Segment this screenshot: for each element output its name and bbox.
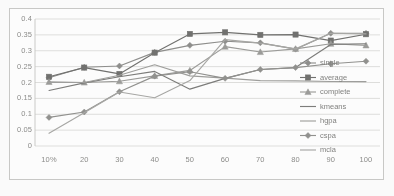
legend-item-single[interactable]: single [320, 58, 340, 67]
x-tick-label: 20 [68, 155, 100, 164]
y-tick-label: 0 [8, 141, 32, 150]
line-chart [0, 0, 394, 196]
legend-item-mcla[interactable]: mcla [320, 145, 336, 154]
x-tick-label: 70 [244, 155, 276, 164]
y-tick-label: 0.35 [8, 30, 32, 39]
legend-item-complete[interactable]: complete [320, 87, 350, 96]
x-tick-label: 30 [103, 155, 135, 164]
x-tick-label: 50 [174, 155, 206, 164]
y-tick-label: 0.4 [8, 14, 32, 23]
legend-item-hgpa[interactable]: hgpa [320, 116, 337, 125]
y-tick-label: 0.2 [8, 78, 32, 87]
x-tick-label: 10% [33, 155, 65, 164]
y-tick-label: 0.1 [8, 109, 32, 118]
x-tick-label: 40 [139, 155, 171, 164]
y-tick-label: 0.05 [8, 125, 32, 134]
legend-item-average[interactable]: average [320, 73, 347, 82]
legend-item-kmeans[interactable]: kmeans [320, 102, 346, 111]
legend-swatch-cspa [300, 133, 316, 139]
y-tick-label: 0.3 [8, 46, 32, 55]
x-tick-label: 80 [280, 155, 312, 164]
legend-swatch-complete [300, 89, 316, 95]
y-tick-label: 0.25 [8, 62, 32, 71]
x-tick-label: 100 [350, 155, 382, 164]
legend-item-cspa[interactable]: cspa [320, 131, 336, 140]
legend-swatch-average [300, 75, 316, 80]
x-tick-label: 60 [209, 155, 241, 164]
chart-figure: 0.40.350.30.250.20.150.10.050 10%2030405… [0, 0, 394, 196]
y-tick-label: 0.15 [8, 93, 32, 102]
x-tick-label: 90 [315, 155, 347, 164]
